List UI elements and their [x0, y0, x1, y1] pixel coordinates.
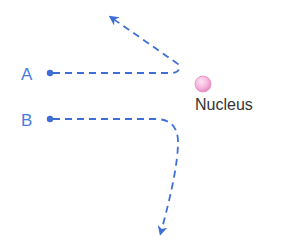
- path-b-line: [53, 119, 178, 232]
- nucleus-label: Nucleus: [195, 96, 253, 113]
- trajectory-b: B: [21, 111, 178, 232]
- path-a-line: [53, 18, 179, 73]
- trajectory-a: A: [21, 18, 179, 84]
- nucleus-icon: [195, 76, 211, 92]
- label-a: A: [21, 65, 33, 84]
- scattering-diagram: A B Nucleus: [0, 0, 285, 251]
- nucleus: Nucleus: [195, 76, 253, 113]
- start-dot-a: [47, 70, 53, 76]
- start-dot-b: [47, 116, 53, 122]
- label-b: B: [21, 111, 32, 130]
